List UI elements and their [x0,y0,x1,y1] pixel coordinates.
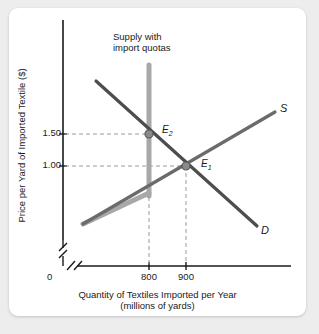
y-axis-title: Price per Yard of Imported Textile ($) [17,58,28,233]
x-axis-title: Quantity of Textiles Imported per Year (… [9,290,306,312]
equilibrium-label-e1: E1 [201,158,212,172]
x-axis-title-line2: (millions of yards) [120,300,194,311]
equilibrium-label-e2: E2 [162,124,173,138]
quota-supply-annotation: Supply with import quotas [113,32,223,54]
equilibrium-label-e2-base: E [162,124,169,135]
quota-annotation-line1: Supply with [113,31,162,42]
equilibrium-label-e1-base: E [201,158,208,169]
y-tick-label-100: 1.00 [27,160,61,171]
x-axis-title-line1: Quantity of Textiles Imported per Year [78,289,236,300]
x-tick-label-0: 0 [47,272,52,283]
equilibrium-label-e1-subscript: 1 [208,164,212,171]
supply-curve [83,112,275,224]
equilibrium-label-e2-subscript: 2 [169,130,173,137]
chart-panel: Price per Yard of Imported Textile ($) 1… [9,8,306,316]
equilibrium-point-e1 [182,162,190,170]
x-tick-label-800: 800 [129,272,169,283]
demand-curve-label: D [261,224,269,237]
equilibrium-point-e2 [145,130,153,138]
quota-annotation-line2: import quotas [113,42,171,53]
x-tick-label-900: 900 [166,272,206,283]
y-tick-label-150: 1.50 [27,128,61,139]
y-axis-break-icon [59,240,67,266]
supply-curve-label: S [280,102,287,115]
